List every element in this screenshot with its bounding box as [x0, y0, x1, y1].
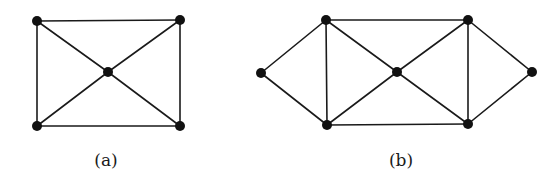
- graph-vertex: [527, 67, 537, 77]
- graph-edge: [261, 73, 327, 125]
- graph-edge: [326, 20, 327, 125]
- graph-edge: [37, 72, 108, 126]
- graph-edge: [37, 20, 180, 21]
- graph-vertex: [32, 16, 42, 26]
- graph-vertex: [256, 68, 266, 78]
- graph-a: [32, 15, 185, 131]
- graph-vertex: [321, 15, 331, 25]
- graph-vertex: [463, 119, 473, 129]
- graph-figure: [0, 0, 553, 185]
- graph-edge: [261, 20, 326, 73]
- graph-edge: [37, 21, 108, 72]
- graph-vertex: [103, 67, 113, 77]
- graph-b: [256, 15, 537, 130]
- graph-vertex: [392, 67, 402, 77]
- caption-a: (a): [94, 150, 117, 170]
- graph-vertex: [32, 121, 42, 131]
- graph-vertex: [322, 120, 332, 130]
- graph-vertex: [175, 121, 185, 131]
- graph-edge: [327, 72, 397, 125]
- graph-vertex: [175, 15, 185, 25]
- graph-b-nodes: [256, 15, 537, 130]
- graph-edge: [468, 72, 532, 124]
- graph-edge: [327, 124, 468, 125]
- graph-edge: [108, 72, 180, 126]
- graph-vertex: [463, 15, 473, 25]
- caption-b: (b): [389, 150, 413, 170]
- graph-edge: [397, 20, 468, 72]
- graph-edge: [108, 20, 180, 72]
- graph-edge: [326, 20, 397, 72]
- graph-edge: [397, 72, 468, 124]
- graph-edge: [468, 20, 532, 72]
